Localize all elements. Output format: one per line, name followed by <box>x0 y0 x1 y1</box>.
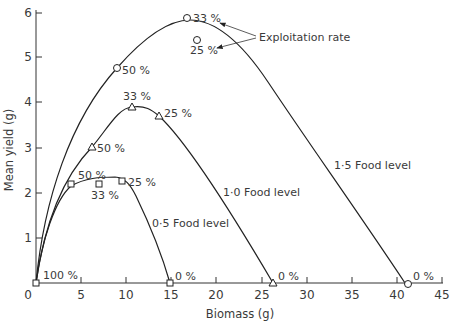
label-t25: 25 % <box>164 107 192 120</box>
label-c50: 50 % <box>122 64 150 77</box>
label-s33: 33 % <box>91 189 119 202</box>
label-c25: 25 % <box>190 44 218 57</box>
square-marker <box>119 178 125 184</box>
circle-marker <box>194 37 201 44</box>
y-tick: 3 <box>24 141 32 155</box>
x-axis-title: Biomass (g) <box>206 307 274 321</box>
curve-1-5-food-level <box>36 20 405 283</box>
y-tick-labels: 1 2 3 4 5 6 <box>24 6 32 245</box>
label-s25: 25 % <box>128 176 156 189</box>
square-marker <box>167 280 173 286</box>
y-axis-title: Mean yield (g) <box>2 109 16 192</box>
x-tick: 10 <box>118 288 133 302</box>
curves <box>36 20 405 283</box>
series-label-1-0: 1·0 Food level <box>223 186 300 199</box>
exploitation-rate-label: Exploitation rate <box>259 31 350 44</box>
circle-marker <box>114 65 121 72</box>
label-100pct: 100 % <box>43 269 78 282</box>
x-tick: 40 <box>389 288 404 302</box>
square-marker <box>68 181 74 187</box>
x-tick: 20 <box>208 288 223 302</box>
x-tick: 25 <box>254 288 269 302</box>
label-t0: 0 % <box>278 270 299 283</box>
label-s0: 0 % <box>175 270 196 283</box>
y-tick: 1 <box>24 231 32 245</box>
x-tick: 15 <box>163 288 178 302</box>
point-labels: 100 % 50 % 33 % 25 % 0 % 50 % 33 % 25 % … <box>43 12 434 283</box>
label-t50: 50 % <box>97 142 125 155</box>
x-tick: 0 <box>24 288 32 302</box>
y-tick: 4 <box>24 95 32 109</box>
label-s50: 50 % <box>78 169 106 182</box>
x-tick: 30 <box>299 288 314 302</box>
series-label-0-5: 0·5 Food level <box>152 217 229 230</box>
label-c0: 0 % <box>413 270 434 283</box>
x-tick: 35 <box>344 288 359 302</box>
y-tick: 2 <box>24 186 32 200</box>
yield-biomass-chart: 0 5 10 15 20 25 30 35 40 45 1 2 3 4 5 6 … <box>0 0 460 324</box>
label-c33: 33 % <box>193 12 221 25</box>
series-labels: 1·5 Food level 1·0 Food level 0·5 Food l… <box>152 159 411 230</box>
circle-marker <box>405 281 412 288</box>
y-tick: 5 <box>24 50 32 64</box>
arrow-to-25 <box>217 38 256 48</box>
circle-marker <box>184 15 191 22</box>
series-label-1-5: 1·5 Food level <box>334 159 411 172</box>
x-tick-labels: 0 5 10 15 20 25 30 35 40 45 <box>24 288 449 302</box>
x-tick: 5 <box>77 288 85 302</box>
y-tick: 6 <box>24 6 32 20</box>
square-marker <box>33 280 39 286</box>
label-t33: 33 % <box>123 90 151 103</box>
x-tick: 45 <box>434 288 449 302</box>
